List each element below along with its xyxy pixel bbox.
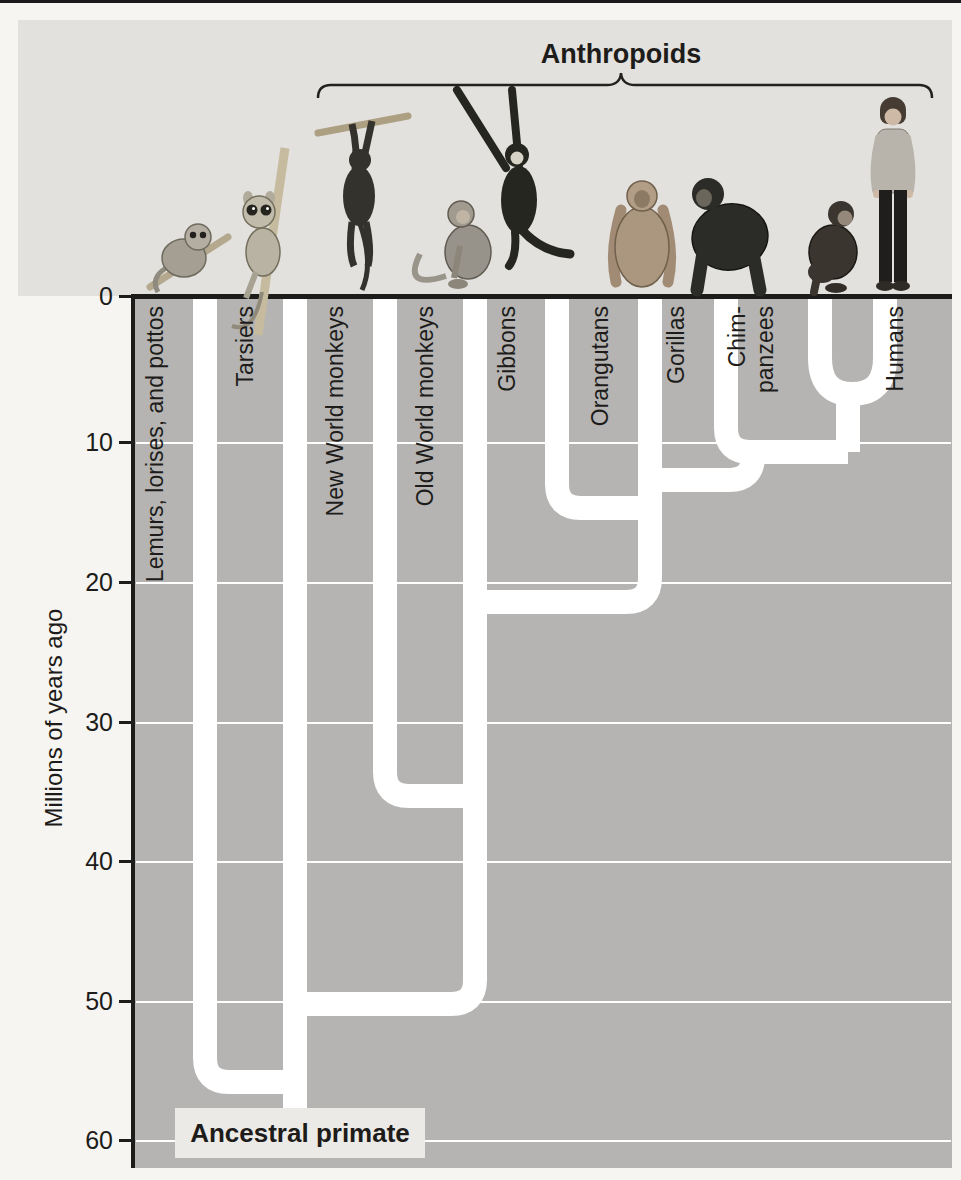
primate-phylogeny-figure: 0 10 20 30 40 50 60 Millions of years ag…: [0, 0, 961, 1180]
label-chimpanzees-line2: panzees: [752, 306, 778, 393]
y-axis-title: Millions of years ago: [40, 609, 67, 828]
label-new-world-monkeys: New World monkeys: [322, 306, 348, 516]
label-gibbons: Gibbons: [494, 306, 520, 392]
tick-50: 50: [85, 987, 113, 1015]
axis-ticks: [119, 295, 132, 1142]
tick-20: 20: [85, 568, 113, 596]
label-old-world-monkeys: Old World monkeys: [412, 306, 438, 506]
anthropoids-label: Anthropoids: [541, 39, 701, 69]
page-top-rule: [0, 0, 961, 3]
label-gorillas: Gorillas: [663, 306, 689, 384]
label-chimpanzees-line1: Chim-: [724, 306, 750, 367]
zero-line: [135, 294, 952, 299]
label-humans: Humans: [882, 306, 908, 392]
label-tarsiers: Tarsiers: [232, 306, 258, 387]
tick-10: 10: [85, 428, 113, 456]
tick-60: 60: [85, 1126, 113, 1154]
tick-40: 40: [85, 847, 113, 875]
root-label: Ancestral primate: [190, 1118, 410, 1148]
tick-labels: 0 10 20 30 40 50 60: [85, 282, 113, 1154]
label-lemurs: Lemurs, lorises, and pottos: [142, 306, 168, 582]
tick-0: 0: [99, 282, 113, 310]
label-orangutans: Orangutans: [587, 306, 613, 426]
plot-panel: [135, 296, 952, 1168]
y-axis-line: [131, 294, 135, 1168]
tick-30: 30: [85, 708, 113, 736]
